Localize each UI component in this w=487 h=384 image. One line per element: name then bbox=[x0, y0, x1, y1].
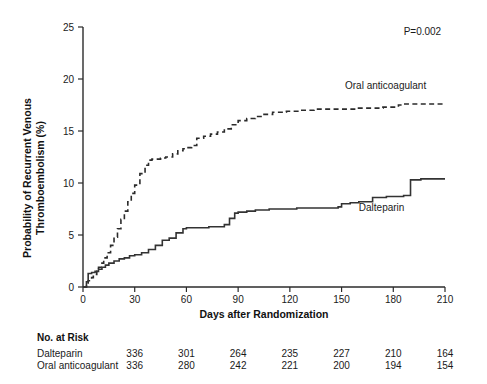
risk-row-value: 301 bbox=[178, 348, 195, 359]
chart-canvas: Probability of Recurrent Venous Thromboe… bbox=[0, 0, 487, 384]
y-axis-title-line2: Thromboembolism (%) bbox=[34, 121, 46, 235]
y-tick-label: 20 bbox=[63, 74, 75, 85]
risk-table-heading: No. at Risk bbox=[37, 332, 89, 343]
risk-row-value: 235 bbox=[282, 348, 299, 359]
risk-row-value: 264 bbox=[230, 348, 247, 359]
risk-row-value: 242 bbox=[230, 360, 247, 371]
y-axis-title: Probability of Recurrent Venous Thromboe… bbox=[21, 98, 46, 258]
risk-row-value: 210 bbox=[385, 348, 402, 359]
chart-annotations: P=0.002Oral anticoagulantDalteparin bbox=[345, 26, 442, 213]
kaplan-meier-figure: Probability of Recurrent Venous Thromboe… bbox=[0, 0, 487, 384]
y-tick-label: 0 bbox=[68, 282, 74, 293]
x-tick-label: 150 bbox=[333, 294, 350, 305]
y-axis-title-line1: Probability of Recurrent Venous bbox=[21, 98, 33, 258]
x-axis-ticks: 0306090120150180210 bbox=[80, 287, 454, 305]
x-tick-label: 60 bbox=[181, 294, 193, 305]
risk-row-value: 336 bbox=[126, 360, 143, 371]
risk-row-value: 221 bbox=[282, 360, 299, 371]
risk-row-label: Oral anticoagulant bbox=[37, 360, 118, 371]
x-tick-label: 90 bbox=[233, 294, 245, 305]
risk-row-value: 227 bbox=[333, 348, 350, 359]
chart-annotation: Dalteparin bbox=[359, 202, 405, 213]
risk-row-value: 200 bbox=[333, 360, 350, 371]
y-tick-label: 15 bbox=[63, 126, 75, 137]
y-tick-label: 10 bbox=[63, 178, 75, 189]
chart-annotation: P=0.002 bbox=[404, 26, 442, 37]
curve-oral-anticoagulant bbox=[83, 104, 445, 287]
y-tick-label: 5 bbox=[68, 230, 74, 241]
risk-row-value: 154 bbox=[437, 360, 454, 371]
risk-table-rows: Dalteparin336301264235227210164Oral anti… bbox=[37, 348, 454, 371]
x-tick-label: 0 bbox=[80, 294, 86, 305]
x-tick-label: 120 bbox=[282, 294, 299, 305]
risk-row-value: 164 bbox=[437, 348, 454, 359]
x-tick-label: 210 bbox=[437, 294, 454, 305]
risk-table: No. at Risk Dalteparin336301264235227210… bbox=[37, 332, 454, 371]
x-tick-label: 180 bbox=[385, 294, 402, 305]
x-axis-title: Days after Randomization bbox=[200, 308, 329, 320]
x-tick-label: 30 bbox=[129, 294, 141, 305]
y-axis-ticks: 0510152025 bbox=[63, 22, 83, 293]
risk-row-value: 280 bbox=[178, 360, 195, 371]
risk-row-value: 194 bbox=[385, 360, 402, 371]
risk-row-value: 336 bbox=[126, 348, 143, 359]
curve-dalteparin bbox=[83, 179, 445, 287]
risk-row-label: Dalteparin bbox=[37, 348, 83, 359]
chart-annotation: Oral anticoagulant bbox=[345, 80, 426, 91]
y-tick-label: 25 bbox=[63, 22, 75, 33]
